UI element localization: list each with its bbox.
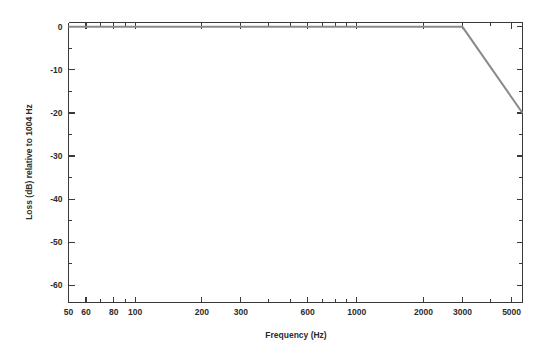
y-tick-label--50: -50	[50, 237, 63, 247]
y-axis-title: Loss (dB) relative to 1004 Hz	[24, 104, 34, 220]
y-tick-label--10: -10	[50, 65, 63, 75]
y-tick-label--40: -40	[50, 194, 63, 204]
ticks-group	[69, 23, 523, 303]
y-tick-label--30: -30	[50, 151, 63, 161]
x-tick-label-200: 200	[195, 307, 209, 317]
tick-labels-group: 50608010020030060010002000300050000-10-2…	[50, 22, 521, 316]
axis-titles-group: Frequency (Hz) Loss (dB) relative to 100…	[24, 104, 327, 340]
y-tick-label--20: -20	[50, 108, 63, 118]
axes-group	[69, 23, 523, 303]
x-tick-label-300: 300	[234, 307, 248, 317]
x-tick-label-100: 100	[128, 307, 142, 317]
x-axis-title: Frequency (Hz)	[265, 330, 327, 340]
data-series-0	[69, 27, 523, 113]
x-tick-label-50: 50	[64, 307, 74, 317]
x-tick-label-80: 80	[109, 307, 119, 317]
x-tick-label-600: 600	[300, 307, 314, 317]
y-tick-label--60: -60	[50, 280, 63, 290]
plot-frame	[69, 23, 523, 303]
x-tick-label-2000: 2000	[414, 307, 433, 317]
x-tick-label-1000: 1000	[347, 307, 366, 317]
y-tick-label-0: 0	[58, 22, 63, 32]
chart-figure: 50608010020030060010002000300050000-10-2…	[0, 0, 545, 351]
data-series-group	[69, 27, 523, 113]
x-tick-label-3000: 3000	[453, 307, 472, 317]
x-tick-label-5000: 5000	[502, 307, 521, 317]
loss-vs-frequency-chart: 50608010020030060010002000300050000-10-2…	[0, 0, 545, 351]
x-tick-label-60: 60	[81, 307, 91, 317]
